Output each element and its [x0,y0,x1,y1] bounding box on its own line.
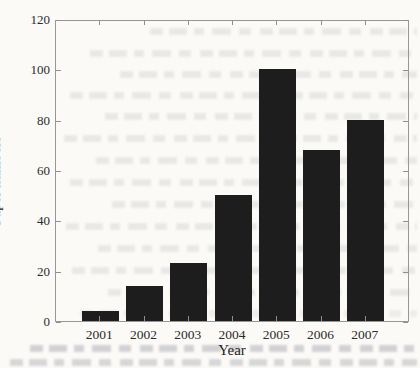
bar-2006 [303,150,340,321]
y-tick-label: 60 [14,164,50,178]
y-tick-label: 0 [14,315,50,329]
bar-2001 [82,311,119,321]
bar-2002 [126,286,163,321]
axis-tick [403,221,408,222]
axis-tick [56,221,61,222]
scanned-figure-page: Paper numbers 20012002200320042005200620… [0,0,420,368]
axis-tick [56,272,61,273]
axis-tick [99,316,100,321]
axis-tick [276,20,277,25]
axis-tick [188,316,189,321]
plot-area [55,20,409,322]
axis-tick [56,322,61,323]
x-tick-label: 2002 [121,327,167,343]
x-tick-label: 2005 [253,327,299,343]
axis-tick [403,272,408,273]
bar-2003 [170,263,207,321]
axis-tick [144,316,145,321]
axis-tick [321,316,322,321]
axis-tick [321,20,322,25]
y-tick-label: 20 [14,265,50,279]
y-axis-title: Paper numbers [0,116,5,246]
y-tick-label: 100 [14,63,50,77]
bar-2007 [347,120,384,321]
axis-tick [403,322,408,323]
axis-tick [56,70,61,71]
axis-tick [403,121,408,122]
x-tick-label: 2003 [165,327,211,343]
axis-tick [99,20,100,25]
axis-tick [188,20,189,25]
axis-tick [403,171,408,172]
y-tick-label: 80 [14,114,50,128]
axis-tick [56,171,61,172]
y-tick-label: 120 [14,13,50,27]
bar-2005 [259,69,296,321]
x-tick-label: 2001 [76,327,122,343]
y-tick-label: 40 [14,214,50,228]
axis-tick [56,121,61,122]
axis-tick [365,20,366,25]
x-axis-title: Year [196,342,268,359]
axis-tick [56,20,61,21]
bar-2004 [215,195,252,321]
x-tick-label: 2006 [298,327,344,343]
axis-tick [365,316,366,321]
x-tick-label: 2007 [342,327,388,343]
axis-tick [232,20,233,25]
axis-tick [276,316,277,321]
axis-tick [144,20,145,25]
axis-tick [403,70,408,71]
axis-tick [232,316,233,321]
x-tick-label: 2004 [209,327,255,343]
axis-tick [403,20,408,21]
